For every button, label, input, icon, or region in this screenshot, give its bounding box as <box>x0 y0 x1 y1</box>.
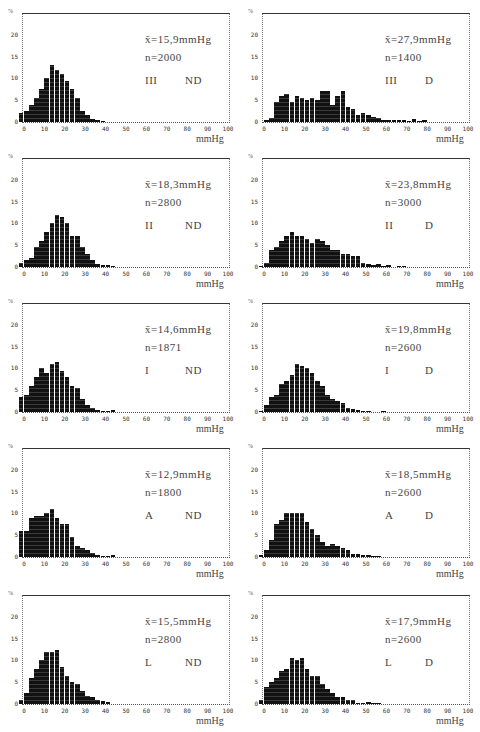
histogram-bar <box>29 518 34 557</box>
histogram-bar <box>279 671 284 704</box>
histogram-bar <box>70 236 75 267</box>
histogram-bar <box>335 96 340 122</box>
histogram-bar <box>284 669 289 704</box>
x-axis-line <box>22 704 230 705</box>
histogram-bar <box>44 513 49 557</box>
x-tick-label: 50 <box>118 707 134 714</box>
histogram-bar <box>412 119 417 122</box>
x-tick-label: 80 <box>419 560 435 567</box>
y-tick-label: 5 <box>2 531 18 538</box>
x-tick-label: 70 <box>159 707 175 714</box>
y-tick-label: 0 <box>242 408 258 415</box>
x-tick-label: 50 <box>118 560 134 567</box>
histogram-bar <box>392 120 397 122</box>
histogram-bar <box>325 395 330 412</box>
histogram-bar <box>274 102 279 122</box>
histogram-bar <box>70 682 75 704</box>
y-tick-label: 5 <box>2 96 18 103</box>
y-tick-label: 10 <box>2 364 18 371</box>
x-tick-label: 90 <box>440 125 456 132</box>
x-tick-label: 50 <box>118 415 134 422</box>
histogram-bar <box>371 703 376 704</box>
x-tick-label: 20 <box>297 125 313 132</box>
condition-label: ND <box>185 509 202 521</box>
histogram-bar <box>90 119 95 122</box>
x-tick-label: 20 <box>297 560 313 567</box>
group-condition-label: ID <box>385 364 389 376</box>
y-tick-label: 5 <box>242 386 258 393</box>
histogram-bar <box>320 684 325 704</box>
histogram-bar <box>101 121 106 122</box>
x-tick-label: 20 <box>57 125 73 132</box>
x-unit-label: mmHg <box>196 278 224 289</box>
bars-area <box>22 595 230 704</box>
histogram-bar <box>325 546 330 557</box>
x-tick-label: 50 <box>358 270 374 277</box>
histogram-bar <box>65 377 70 412</box>
x-tick-label: 10 <box>276 125 292 132</box>
mean-label: x̄=17,9mmHg <box>385 615 452 627</box>
histogram-bar <box>85 550 90 557</box>
x-tick-label: 80 <box>179 415 195 422</box>
histogram-bar <box>361 263 366 267</box>
x-tick-label: 70 <box>399 125 415 132</box>
histogram-bar <box>381 120 386 122</box>
histogram-bar <box>29 105 34 122</box>
histogram-bar <box>290 658 295 704</box>
group-condition-label: IID <box>385 219 393 231</box>
histogram-panel-l-nd: % 05101520 0102030405060708090100 x̄=15,… <box>0 582 240 728</box>
x-tick-label: 30 <box>77 415 93 422</box>
x-tick-label: 80 <box>179 707 195 714</box>
x-axis-line <box>262 704 470 705</box>
histogram-bar <box>269 250 274 267</box>
mean-label: x̄=23,8mmHg <box>385 178 452 190</box>
histogram-bar <box>366 115 371 122</box>
histogram-bar <box>310 676 315 704</box>
x-tick-label: 40 <box>98 560 114 567</box>
y-tick-label: 0 <box>2 263 18 270</box>
y-tick-label: 20 <box>242 321 258 328</box>
x-tick-label: 0 <box>16 270 32 277</box>
histogram-bar <box>366 411 371 412</box>
histogram-panel-ii-d: % 05101520 0102030405060708090100 x̄=23,… <box>240 145 480 291</box>
x-tick-label: 30 <box>77 125 93 132</box>
histogram-bar <box>305 669 310 704</box>
histogram-bar <box>106 411 111 412</box>
x-tick-label: 100 <box>460 415 476 422</box>
histogram-bar <box>65 223 70 267</box>
histogram-bar <box>60 371 65 412</box>
histogram-bar <box>325 245 330 267</box>
x-tick-label: 0 <box>256 270 272 277</box>
x-tick-label: 40 <box>338 560 354 567</box>
x-tick-label: 80 <box>419 415 435 422</box>
x-unit-label: mmHg <box>436 715 464 726</box>
x-tick-label: 20 <box>57 560 73 567</box>
group-condition-label: LD <box>385 656 392 668</box>
histogram-bar <box>351 256 356 267</box>
x-tick-label: 10 <box>36 270 52 277</box>
bars-area <box>262 303 470 412</box>
histogram-bar <box>315 239 320 267</box>
x-tick-label: 30 <box>317 707 333 714</box>
histogram-panel-iii-nd: % 05101520 0102030405060708090100 x̄=15,… <box>0 0 240 146</box>
x-tick-label: 60 <box>138 560 154 567</box>
x-unit-label: mmHg <box>196 568 224 579</box>
histogram-bar <box>279 96 284 122</box>
condition-label: ND <box>185 219 202 231</box>
histogram-bar <box>366 555 371 557</box>
histogram-bar <box>346 550 351 557</box>
condition-label: D <box>425 509 433 521</box>
histogram-bar <box>341 697 346 704</box>
histogram-bar <box>330 105 335 122</box>
x-tick-label: 10 <box>36 415 52 422</box>
x-tick-label: 0 <box>16 560 32 567</box>
histogram-bar <box>351 409 356 412</box>
histogram-bar <box>284 94 289 122</box>
x-tick-label: 80 <box>419 125 435 132</box>
y-tick-label: 10 <box>242 74 258 81</box>
x-tick-label: 40 <box>98 415 114 422</box>
histogram-panel-l-d: % 05101520 0102030405060708090100 x̄=17,… <box>240 582 480 728</box>
x-tick-label: 50 <box>358 415 374 422</box>
histogram-bar <box>24 395 29 412</box>
x-tick-label: 0 <box>16 125 32 132</box>
